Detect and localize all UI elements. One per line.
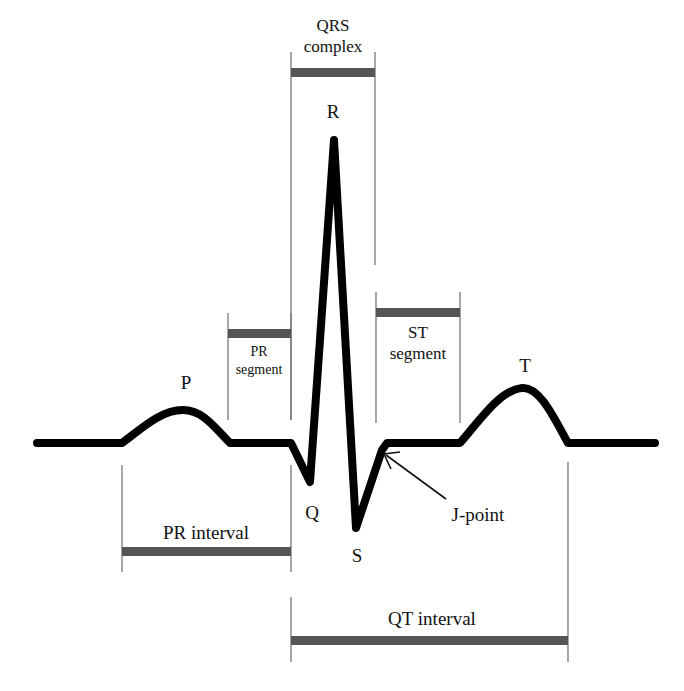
p-wave-label: P bbox=[181, 372, 192, 393]
pr-segment-label-line2: segment bbox=[236, 362, 283, 377]
st-segment-bar bbox=[376, 308, 460, 317]
pr-interval-label: PR interval bbox=[163, 522, 249, 543]
qt-interval-label: QT interval bbox=[388, 608, 476, 629]
st-segment-label-line2: segment bbox=[390, 344, 447, 363]
ecg-diagram: QRS complex R P T Q S PR segment ST segm… bbox=[0, 0, 684, 691]
pr-segment-bar bbox=[228, 329, 291, 338]
q-wave-label: Q bbox=[305, 502, 319, 523]
t-wave-label: T bbox=[519, 355, 531, 376]
qrs-complex-label-line1: QRS bbox=[316, 16, 349, 35]
ecg-waveform bbox=[37, 140, 655, 528]
qrs-complex-bar bbox=[291, 68, 375, 77]
qt-interval-bar bbox=[291, 636, 568, 645]
r-wave-label: R bbox=[327, 101, 340, 122]
pr-segment-label-line1: PR bbox=[250, 344, 268, 359]
j-point-label: J-point bbox=[452, 504, 506, 525]
pr-interval-bar bbox=[122, 547, 291, 556]
st-segment-label-line1: ST bbox=[408, 323, 428, 342]
s-wave-label: S bbox=[352, 545, 363, 566]
qrs-complex-label-line2: complex bbox=[304, 37, 363, 56]
j-point-arrow bbox=[384, 452, 446, 499]
